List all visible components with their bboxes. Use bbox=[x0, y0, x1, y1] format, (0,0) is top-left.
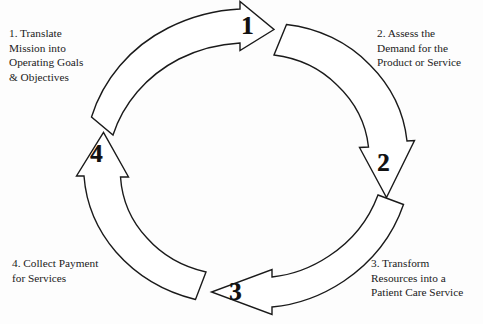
caption-step-1-line-4: & Objectives bbox=[9, 70, 83, 85]
caption-step-1-line-3: Operating Goals bbox=[9, 55, 83, 70]
caption-step-4: 4. Collect Payment for Services bbox=[12, 256, 98, 285]
caption-step-1-line-1: 1. Translate bbox=[9, 26, 83, 41]
caption-step-1-line-2: Mission into bbox=[9, 41, 83, 56]
caption-step-2-line-1: 2. Assess the bbox=[377, 26, 461, 41]
caption-step-2-line-3: Product or Service bbox=[377, 55, 461, 70]
step-number-3: 3 bbox=[229, 279, 242, 304]
caption-step-3-line-1: 3. Transform bbox=[371, 256, 463, 271]
step-number-2: 2 bbox=[377, 150, 390, 175]
step-number-1: 1 bbox=[241, 13, 254, 38]
caption-step-3-line-2: Resources into a bbox=[371, 271, 463, 286]
caption-step-2-line-2: Demand for the bbox=[377, 41, 461, 56]
caption-step-3: 3. Transform Resources into a Patient Ca… bbox=[371, 256, 463, 300]
caption-step-2: 2. Assess the Demand for the Product or … bbox=[377, 26, 461, 70]
step-number-4: 4 bbox=[90, 141, 103, 166]
cycle-diagram: 1 2 3 4 1. Translate Mission into Operat… bbox=[0, 0, 483, 324]
caption-step-4-line-1: 4. Collect Payment bbox=[12, 256, 98, 271]
caption-step-4-line-2: for Services bbox=[12, 271, 98, 286]
caption-step-1: 1. Translate Mission into Operating Goal… bbox=[9, 26, 83, 85]
caption-step-3-line-3: Patient Care Service bbox=[371, 285, 463, 300]
